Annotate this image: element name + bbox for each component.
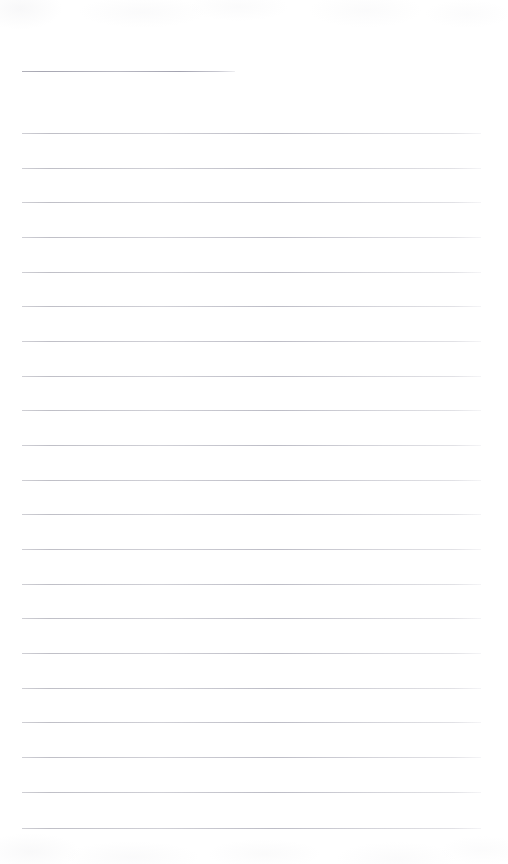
body-rule[interactable] [22, 618, 481, 619]
body-rule[interactable] [22, 549, 481, 550]
body-rule[interactable] [22, 445, 481, 446]
body-rule[interactable] [22, 722, 481, 723]
body-rule[interactable] [22, 688, 481, 689]
body-rule[interactable] [22, 168, 481, 169]
body-rule[interactable] [22, 514, 481, 515]
body-rule[interactable] [22, 272, 481, 273]
body-rule[interactable] [22, 237, 481, 238]
body-rule[interactable] [22, 653, 481, 654]
body-rule[interactable] [22, 341, 481, 342]
body-rule[interactable] [22, 757, 481, 758]
body-rule[interactable] [22, 584, 481, 585]
body-rule[interactable] [22, 133, 481, 134]
body-rule[interactable] [22, 480, 481, 481]
lined-paper-page [0, 0, 508, 864]
body-rule[interactable] [22, 792, 481, 793]
body-rule[interactable] [22, 410, 481, 411]
body-rule[interactable] [22, 202, 481, 203]
body-rule[interactable] [22, 828, 481, 829]
body-rule[interactable] [22, 376, 481, 377]
scan-artifact-overlay [0, 0, 508, 864]
title-rule[interactable] [22, 71, 235, 72]
body-rule[interactable] [22, 306, 481, 307]
